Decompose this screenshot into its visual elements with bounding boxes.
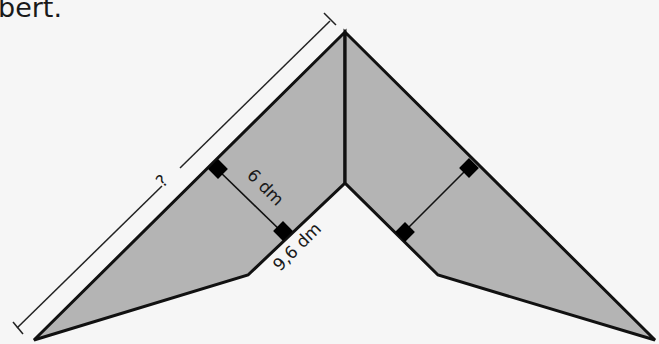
left-wing [34, 32, 345, 340]
boomerang-diagram: ? 6 dm 9,6 dm [0, 0, 659, 344]
right-wing [345, 32, 655, 340]
dimension-tick-top [324, 13, 336, 25]
unknown-side-label: ? [152, 170, 172, 191]
